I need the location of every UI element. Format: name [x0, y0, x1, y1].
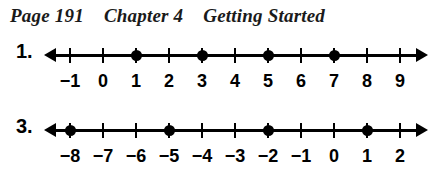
- plotted-point: [197, 50, 208, 61]
- header-page-number: Page 191: [10, 3, 84, 29]
- plotted-point: [362, 125, 373, 136]
- arrowhead-left-icon: [44, 48, 56, 62]
- axis-tick: [201, 123, 203, 138]
- axis-tick: [168, 48, 170, 63]
- axis-tick: [300, 48, 302, 63]
- problem-3-number-line: −8−7−6−5−4−3−2−1012: [0, 107, 448, 181]
- plotted-point: [65, 125, 76, 136]
- plotted-point: [131, 50, 142, 61]
- axis-tick: [399, 48, 401, 63]
- problem-1-number-line: −10123456789: [0, 32, 448, 106]
- plotted-point: [263, 50, 274, 61]
- axis-tick: [300, 123, 302, 138]
- plotted-point: [329, 50, 340, 61]
- axis-tick: [399, 123, 401, 138]
- axis-tick: [333, 123, 335, 138]
- arrowhead-right-icon: [416, 48, 428, 62]
- axis-tick-label: 2: [380, 145, 420, 167]
- header-section-title: Getting Started: [203, 3, 325, 29]
- arrowhead-right-icon: [416, 123, 428, 137]
- axis-tick: [366, 48, 368, 63]
- axis-tick-label: 9: [380, 70, 420, 92]
- page-header: Page 191Chapter 4Getting Started: [10, 3, 440, 29]
- axis-tick: [69, 48, 71, 63]
- axis-tick: [234, 123, 236, 138]
- problem-3: 3. −8−7−6−5−4−3−2−1012: [0, 107, 448, 181]
- header-chapter: Chapter 4: [104, 3, 183, 29]
- plotted-point: [164, 125, 175, 136]
- arrowhead-left-icon: [44, 123, 56, 137]
- worksheet-page: Page 191Chapter 4Getting Started 1. −101…: [0, 0, 448, 184]
- problem-1: 1. −10123456789: [0, 32, 448, 106]
- axis-tick: [234, 48, 236, 63]
- plotted-point: [263, 125, 274, 136]
- axis-tick: [102, 48, 104, 63]
- axis-tick: [102, 123, 104, 138]
- axis-tick: [135, 123, 137, 138]
